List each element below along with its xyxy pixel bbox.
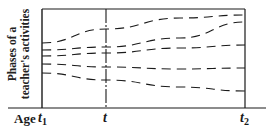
tick-t1: t1 <box>38 110 47 127</box>
phase-line-3 <box>42 45 245 56</box>
phase-line-4 <box>42 64 245 69</box>
teacher-activities-diagram: Phases of a teacher's activities Age t1 … <box>0 0 277 131</box>
y-axis-label: Phases of a teacher's activities <box>6 4 46 104</box>
phase-line-5 <box>42 73 245 91</box>
phase-lines-group <box>42 15 245 91</box>
tick-t-base: t <box>103 110 107 125</box>
phase-line-1 <box>42 15 245 43</box>
tick-t2-sub: 2 <box>244 116 249 127</box>
tick-t2: t2 <box>240 110 249 127</box>
tick-t: t <box>103 110 107 126</box>
y-axis-label-line-1: Phases of a <box>6 4 19 104</box>
y-axis-label-line-2: teacher's activities <box>19 4 32 104</box>
tick-t1-sub: 1 <box>42 116 47 127</box>
x-axis-label: Age <box>14 111 36 127</box>
